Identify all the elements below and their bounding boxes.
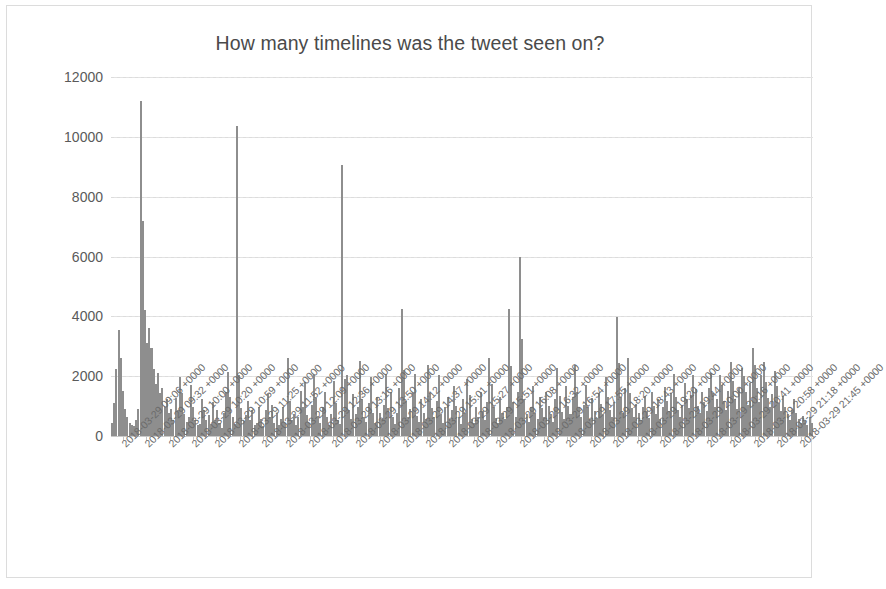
x-axis-tick (567, 436, 568, 441)
x-axis-tick (450, 436, 451, 441)
x-axis-tick (240, 436, 241, 441)
bar (811, 423, 813, 436)
x-axis-tick (287, 436, 288, 441)
chart-title: How many timelines was the tweet seen on… (7, 32, 813, 55)
y-axis-tick-label: 2000 (72, 368, 103, 384)
x-axis-tick (474, 436, 475, 441)
x-axis-ticks (111, 436, 813, 441)
x-axis-tick (357, 436, 358, 441)
x-axis-tick (661, 436, 662, 441)
x-axis-tick (591, 436, 592, 441)
y-axis-tick-label: 0 (95, 428, 103, 444)
x-axis-tick (521, 436, 522, 441)
x-axis-tick (497, 436, 498, 441)
x-axis-tick (755, 436, 756, 441)
x-axis-tick (333, 436, 334, 441)
y-axis-tick-label: 4000 (72, 308, 103, 324)
y-axis-tick-label: 6000 (72, 249, 103, 265)
x-axis-tick (544, 436, 545, 441)
x-axis-tick (801, 436, 802, 441)
y-axis-tick-label: 8000 (72, 189, 103, 205)
x-axis-tick (731, 436, 732, 441)
y-axis-tick-label: 12000 (64, 69, 103, 85)
y-axis-tick-label: 10000 (64, 129, 103, 145)
x-axis-tick (404, 436, 405, 441)
x-axis-tick (708, 436, 709, 441)
x-axis-tick (638, 436, 639, 441)
x-axis-tick (778, 436, 779, 441)
x-axis-tick (216, 436, 217, 441)
x-axis-tick (684, 436, 685, 441)
x-axis-tick (193, 436, 194, 441)
chart-frame: How many timelines was the tweet seen on… (6, 5, 812, 578)
x-axis-tick (614, 436, 615, 441)
x-axis-tick (427, 436, 428, 441)
x-axis-tick (380, 436, 381, 441)
x-axis-tick (123, 436, 124, 441)
x-axis-tick (170, 436, 171, 441)
x-axis-tick (263, 436, 264, 441)
y-axis: 020004000600080001000012000 (47, 77, 107, 436)
bar-series (111, 77, 813, 436)
plot-area (111, 77, 813, 436)
x-axis-tick (146, 436, 147, 441)
x-axis-tick (310, 436, 311, 441)
